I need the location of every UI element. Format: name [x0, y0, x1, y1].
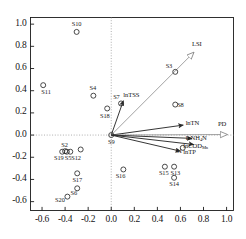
biplot-figure: -0.6-0.4-0.20.00.20.40.60.81.01.00.80.60… — [0, 0, 246, 239]
biplot-canvas — [0, 0, 246, 239]
point-label: S11 — [37, 88, 55, 95]
y-tick-label: 0.2 — [0, 106, 27, 116]
y-tick-label: -0.6 — [0, 195, 27, 205]
point-label: S3 — [160, 62, 178, 69]
point-label: S10 — [68, 20, 86, 27]
y-tick-label: -0.4 — [0, 173, 27, 183]
point-label: S13 — [166, 169, 184, 176]
point-label: S12 — [67, 154, 85, 161]
point-label: S18 — [96, 112, 114, 119]
point-label: S14 — [165, 180, 183, 187]
point-label: S2 — [56, 141, 74, 148]
point-label: S16 — [111, 172, 129, 179]
point-label: S8 — [171, 101, 189, 108]
y-tick-label: 0.4 — [0, 84, 27, 94]
point-label: S4 — [84, 84, 102, 91]
vector-label-pd: PD — [218, 120, 226, 127]
vector-label-lnnh4n: lnNH4N — [186, 134, 207, 142]
point-label: S9 — [102, 138, 120, 145]
y-tick-label: 0.0 — [0, 129, 27, 139]
vector-label-lntss: lnTSS — [123, 91, 139, 98]
vector-label-lntn: lnTN — [186, 119, 200, 126]
y-tick-label: 0.8 — [0, 40, 27, 50]
y-tick-label: 1.0 — [0, 18, 27, 28]
y-tick-label: 0.6 — [0, 62, 27, 72]
vector-label-lsi: LSI — [192, 40, 202, 47]
point-label: S1 — [170, 147, 188, 154]
y-tick-label: -0.2 — [0, 151, 27, 161]
x-tick-label: 1.0 — [211, 214, 243, 224]
point-label: S20 — [51, 196, 69, 203]
point-label: S7 — [107, 93, 125, 100]
point-label: S17 — [68, 176, 86, 183]
